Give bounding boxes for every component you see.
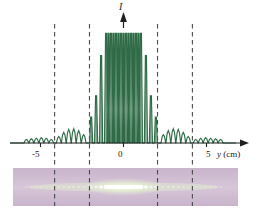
horizontal-axis-label: y (cm) [217, 150, 240, 159]
x-tick-label-zero: 0 [118, 150, 123, 159]
fringe-photograph-strip [13, 168, 238, 206]
diffraction-figure: I -5 0 5 y (cm) [0, 0, 266, 216]
horizontal-axis-unit: (cm) [223, 149, 240, 159]
x-tick-label-pos5: 5 [206, 150, 211, 159]
intensity-plot [0, 0, 266, 166]
x-tick-label-neg5: -5 [32, 150, 40, 159]
fringe-photograph-svg [13, 168, 238, 206]
vertical-axis-label: I [119, 2, 122, 12]
intensity-curve [10, 33, 236, 143]
intensity-plot-svg [0, 0, 266, 166]
axis-ticks [41, 143, 207, 147]
